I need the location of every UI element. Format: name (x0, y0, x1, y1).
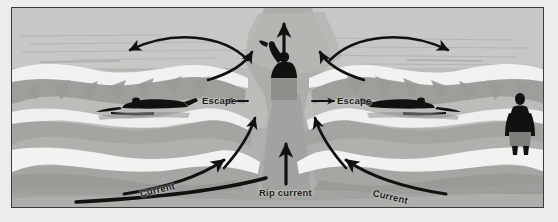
diagram-frame: Escape Escape Rip current Current Curren… (11, 7, 544, 208)
diagram-page: Escape Escape Rip current Current Curren… (0, 0, 558, 222)
victim-board (271, 78, 297, 100)
rip-current-illustration (12, 8, 544, 208)
label-rip-current: Rip current (259, 188, 312, 198)
label-escape-left: Escape (202, 96, 236, 106)
label-escape-right: Escape (337, 96, 371, 106)
rip-current-scene: Escape Escape Rip current Current Curren… (12, 8, 543, 207)
